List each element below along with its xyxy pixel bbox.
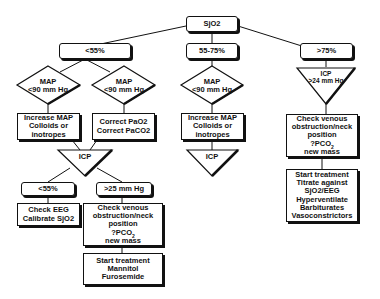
branch-high-label: >75% (317, 47, 336, 55)
increase-map-box-mid: Increase MAP Colloids or inotropes (181, 113, 244, 140)
icp-text: ICP (79, 152, 92, 161)
icp-low-sjo2-label: <55% (38, 185, 57, 193)
icp-mid-label: ICP (191, 153, 233, 161)
icp-text: ICP (206, 152, 219, 161)
treatment-box-low: Start treatment Mannitol Furosemide (83, 253, 163, 285)
check-venous-box-low: Check venous obstruction/neck position ?… (83, 203, 163, 246)
icp-line1: ICP (300, 70, 352, 77)
diamond-line2: <90 mm Hg (18, 86, 78, 94)
icp-high-label: ICP >24 mm Hg (300, 70, 352, 84)
branch-mid-node: 55-75% (186, 43, 238, 59)
box-line: Calibrate SjO2 (23, 215, 74, 223)
diamond-line2: <90 mm Hg (94, 86, 154, 94)
treatment-box-high: Start treatment Titrate against SjO2/EEG… (286, 169, 358, 222)
icp-line2: >24 mm Hg (300, 77, 352, 84)
sjo2-root-node: SjO2 (186, 16, 238, 32)
correct-gases-box: Correct PaO2 Correct PaCO2 (92, 113, 155, 140)
check-eeg-box: Check EEG Calibrate SjO2 (17, 203, 80, 226)
diamond-line2: <90 mm Hg (182, 86, 242, 94)
box-line: Vasoconstrictors (292, 212, 353, 220)
check-venous-box-high: Check venous obstruction/neck position ?… (286, 114, 358, 157)
box-line: new mass (304, 148, 340, 156)
icp-low-sjo2-node: <55% (21, 182, 75, 196)
branch-low-label: <55% (85, 47, 104, 55)
box-line: Furosemide (102, 273, 145, 281)
map-diamond-low-left-label: MAP <90 mm Hg (18, 78, 78, 95)
sjo2-label: SjO2 (203, 20, 220, 28)
box-line: Correct PaCO2 (97, 127, 150, 135)
map-diamond-low-right-label: MAP <90 mm Hg (94, 78, 154, 95)
icp-high-pressure-label: >25 mm Hg (104, 185, 144, 193)
branch-high-node: >75% (300, 43, 353, 59)
branch-low-node: <55% (59, 43, 131, 59)
increase-map-box-low: Increase MAP Colloids or inotropes (17, 113, 80, 140)
box-line: inotropes (195, 131, 229, 139)
icp-low-label: ICP (64, 153, 106, 161)
box-line: inotropes (31, 131, 65, 139)
map-diamond-mid-label: MAP <90 mm Hg (182, 78, 242, 95)
icp-high-pressure-node: >25 mm Hg (96, 182, 152, 196)
box-line: new mass (105, 237, 141, 245)
branch-mid-label: 55-75% (199, 47, 225, 55)
